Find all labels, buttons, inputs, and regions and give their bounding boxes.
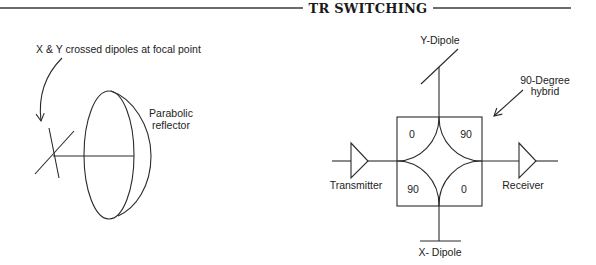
diagram-canvas: TR SWITCHING X & Y crossed dipoles at fo… <box>0 0 596 265</box>
x-dipole-label: X- Dipole <box>418 246 461 258</box>
tr-switching-figure: TR SWITCHING X & Y crossed dipoles at fo… <box>0 0 596 265</box>
x-dipole-element <box>35 131 74 174</box>
port-phase-top-right: 90 <box>460 128 472 140</box>
reflector-dish-curve <box>111 91 151 216</box>
port-phase-bottom-left: 90 <box>407 183 419 195</box>
hybrid-pointer-arrow-icon <box>494 90 523 116</box>
reflector-aperture-ellipse <box>84 91 134 219</box>
focal-point-arrow-icon <box>40 58 62 121</box>
transmitter-amplifier-icon <box>351 143 368 178</box>
port-phase-bottom-right: 0 <box>461 183 467 195</box>
reflector-label-line2: reflector <box>152 119 190 131</box>
header: TR SWITCHING <box>0 1 571 16</box>
transmitter-label: Transmitter <box>330 179 383 191</box>
receiver-amplifier-icon <box>519 143 536 178</box>
parabolic-reflector-diagram: X & Y crossed dipoles at focal point Par… <box>35 43 201 219</box>
crossed-dipoles-caption: X & Y crossed dipoles at focal point <box>36 43 201 55</box>
hybrid-arc-top-left <box>397 117 439 161</box>
y-dipole-label: Y-Dipole <box>420 34 459 46</box>
hybrid-label-line2: hybrid <box>531 85 560 97</box>
hybrid-tr-switch-diagram: Y-Dipole 0 90 90 0 90-Degree hybrid Tran… <box>330 34 570 258</box>
port-phase-top-left: 0 <box>409 128 415 140</box>
page-title: TR SWITCHING <box>309 1 428 16</box>
reflector-label-line1: Parabolic <box>149 107 193 119</box>
receiver-label: Receiver <box>502 179 544 191</box>
